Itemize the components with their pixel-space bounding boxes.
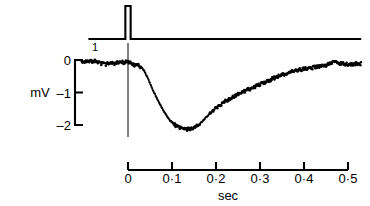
x-tick-label: 0 — [124, 171, 131, 186]
trace-point — [213, 109, 215, 111]
trace-point — [311, 68, 314, 71]
y-axis-bracket — [75, 60, 83, 125]
trace-point — [360, 61, 363, 64]
trace-point — [148, 79, 150, 81]
y-tick-label: 0 — [64, 53, 71, 68]
trace-point — [220, 104, 223, 107]
stimulus-marker-label: 1 — [92, 41, 98, 53]
stimulus-trace-group — [88, 6, 361, 39]
y-axis-label: mV — [30, 85, 50, 100]
y-axis-tick-labels: 0–1–2 — [57, 53, 71, 133]
stimulus-pulse-path — [88, 6, 361, 39]
chart-canvas: 1 0–1–2 mV 00·10·20·30·40·5 sec — [0, 0, 370, 206]
x-tick-label: 0·4 — [295, 171, 314, 186]
x-tick-label: 0·3 — [251, 171, 270, 186]
x-axis-tick-labels: 00·10·20·30·40·5 — [124, 171, 357, 186]
x-tick-label: 0·1 — [163, 171, 182, 186]
figure-root: 1 0–1–2 mV 00·10·20·30·40·5 sec — [0, 0, 370, 206]
y-tick-label: –2 — [57, 118, 71, 133]
y-tick-label: –1 — [57, 86, 71, 101]
x-axis-group: 00·10·20·30·40·5 sec — [124, 162, 357, 203]
x-tick-label: 0·5 — [339, 171, 358, 186]
x-tick-label: 0·2 — [207, 171, 226, 186]
response-trace-dots — [81, 58, 363, 132]
trace-point — [259, 84, 262, 87]
response-trace-group — [81, 58, 363, 132]
y-axis-group: 0–1–2 mV — [30, 53, 83, 133]
trace-point — [359, 64, 362, 67]
x-axis-scale-bar — [128, 162, 348, 170]
x-axis-label: sec — [218, 188, 239, 203]
